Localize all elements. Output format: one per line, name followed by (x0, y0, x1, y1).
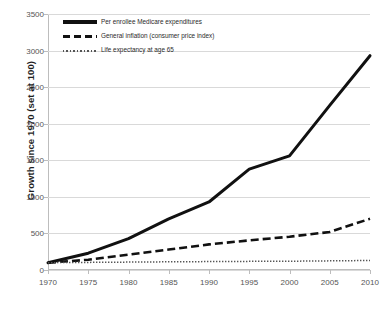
legend-item: Life expectancy at age 65 (63, 44, 273, 55)
series-line (48, 219, 370, 263)
series-line (48, 56, 370, 263)
x-tick-mark (88, 270, 89, 274)
x-axis-tick-labels: 197019751980198519901995200020052010 (48, 270, 370, 296)
x-tick-label: 2010 (350, 278, 380, 287)
legend-item: General inflation (consumer price index) (63, 30, 273, 41)
x-tick-label: 1990 (189, 278, 229, 287)
dotted-line-swatch (63, 50, 97, 52)
x-tick-label: 2005 (310, 278, 350, 287)
x-tick-mark (48, 270, 49, 274)
legend-item-label: Per enrollee Medicare expenditures (101, 16, 202, 27)
legend-item-label: General inflation (consumer price index) (101, 30, 214, 41)
y-tick-label: 1000 (4, 192, 44, 201)
x-tick-mark (209, 270, 210, 274)
legend-item-label: Life expectancy at age 65 (101, 44, 174, 55)
series-line (48, 260, 370, 262)
x-tick-mark (290, 270, 291, 274)
x-tick-mark (129, 270, 130, 274)
x-tick-label: 1980 (109, 278, 149, 287)
y-tick-label: 2500 (4, 83, 44, 92)
x-tick-mark (249, 270, 250, 274)
y-tick-label: 2000 (4, 119, 44, 128)
y-axis-tick-labels: 0500100015002000250030003500 (0, 14, 44, 270)
x-tick-label: 1970 (28, 278, 68, 287)
cropped-header-text (0, 0, 380, 9)
legend-item: Per enrollee Medicare expenditures (63, 16, 273, 27)
chart-legend: Per enrollee Medicare expendituresGenera… (63, 16, 273, 58)
x-tick-mark (169, 270, 170, 274)
chart-container: Growth since 1970 (set at 100) 050010001… (0, 0, 380, 314)
x-tick-label: 2000 (270, 278, 310, 287)
y-tick-label: 0 (4, 266, 44, 275)
x-tick-mark (370, 270, 371, 274)
x-tick-label: 1985 (149, 278, 189, 287)
y-tick-label: 3500 (4, 10, 44, 19)
x-tick-mark (330, 270, 331, 274)
x-tick-label: 1995 (229, 278, 269, 287)
solid-line-swatch (63, 20, 97, 24)
dashed-line-swatch (63, 35, 97, 38)
y-tick-label: 3000 (4, 46, 44, 55)
y-tick-label: 500 (4, 229, 44, 238)
x-tick-label: 1975 (68, 278, 108, 287)
y-tick-label: 1500 (4, 156, 44, 165)
